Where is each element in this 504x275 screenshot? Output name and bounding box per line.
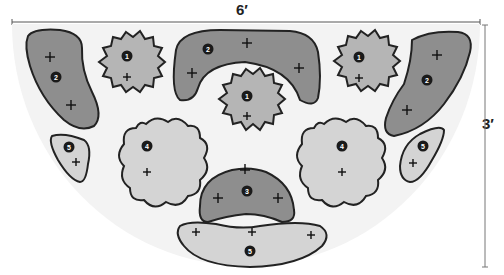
svg-text:2: 2 — [425, 77, 429, 84]
garden-plan-diagram: 6′ 3′ 2 1 — [0, 0, 504, 275]
plant-group-left-flower: 4 — [119, 118, 207, 206]
svg-text:5: 5 — [421, 143, 425, 150]
plant-group-left-small: 5 — [51, 135, 89, 182]
svg-text:4: 4 — [340, 143, 344, 150]
svg-text:1: 1 — [125, 53, 129, 60]
svg-text:2: 2 — [206, 46, 210, 53]
svg-text:5: 5 — [248, 248, 252, 255]
svg-text:4: 4 — [145, 143, 149, 150]
svg-text:2: 2 — [54, 74, 58, 81]
plant-group-right-flower: 4 — [297, 118, 385, 206]
svg-text:1: 1 — [357, 54, 361, 61]
svg-text:3: 3 — [245, 188, 249, 195]
height-dimension-line — [482, 25, 488, 267]
svg-text:1: 1 — [245, 93, 249, 100]
svg-text:5: 5 — [67, 144, 71, 151]
